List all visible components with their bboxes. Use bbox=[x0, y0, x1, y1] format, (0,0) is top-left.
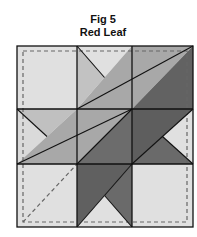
block-bottom-right bbox=[132, 164, 193, 227]
block-top-right bbox=[132, 46, 193, 109]
block-top-left bbox=[17, 46, 77, 109]
quilt-block-diagram bbox=[0, 0, 197, 237]
